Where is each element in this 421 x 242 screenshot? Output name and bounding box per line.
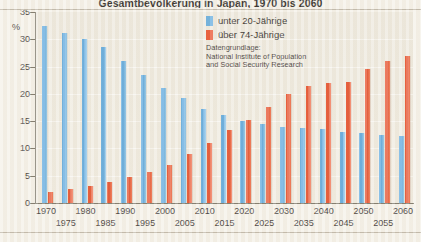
- x-tick-label: 2015: [214, 218, 234, 228]
- bar-unter-20: [240, 121, 245, 203]
- y-axis-unit-label: %: [12, 22, 20, 32]
- bar-ueber-74: [266, 107, 271, 203]
- bar-unter-20: [359, 133, 364, 203]
- bar-group: [300, 12, 311, 203]
- chart-title: Gesamtbevölkerung in Japan, 1970 bis 206…: [0, 0, 421, 8]
- bar-ueber-74: [405, 56, 410, 203]
- y-axis-ticks: 05101520253035: [0, 0, 30, 242]
- y-tick-mark: [30, 148, 35, 149]
- bar-ueber-74: [127, 177, 132, 203]
- bar-ueber-74: [246, 120, 251, 203]
- bar-unter-20: [141, 75, 146, 203]
- y-tick-label: 25: [4, 63, 30, 72]
- bar-ueber-74: [167, 165, 172, 203]
- y-tick-mark: [30, 121, 35, 122]
- y-axis-line: [35, 12, 36, 204]
- x-tick-label: 2045: [334, 218, 354, 228]
- x-tick-label: 1980: [76, 206, 96, 216]
- x-tick-label: 2055: [373, 218, 393, 228]
- legend-swatch-red-icon: [206, 30, 213, 40]
- bar-ueber-74: [48, 192, 53, 203]
- bar-ueber-74: [207, 143, 212, 203]
- x-tick-label: 2025: [254, 218, 274, 228]
- y-tick-label: 20: [4, 90, 30, 99]
- y-tick-label: 10: [4, 144, 30, 153]
- x-tick-label: 2050: [353, 206, 373, 216]
- x-tick-label: 1990: [115, 206, 135, 216]
- x-tick-label: 1995: [135, 218, 155, 228]
- bar-unter-20: [181, 98, 186, 203]
- x-tick-label: 1970: [36, 206, 56, 216]
- bar-ueber-74: [227, 130, 232, 203]
- x-tick-label: 1975: [56, 218, 76, 228]
- y-tick-label: 30: [4, 35, 30, 44]
- bar-unter-20: [340, 132, 345, 203]
- bar-ueber-74: [88, 186, 93, 203]
- source-annotation: Datengrundlage: National Institute of Po…: [206, 44, 306, 70]
- bar-group: [161, 12, 172, 203]
- y-tick-mark: [30, 176, 35, 177]
- bar-group: [340, 12, 351, 203]
- bar-unter-20: [161, 88, 166, 203]
- bar-unter-20: [121, 61, 126, 203]
- legend-item-unter-20: unter 20-Jährige: [206, 14, 287, 27]
- y-tick-mark: [30, 203, 35, 204]
- bar-unter-20: [42, 26, 47, 203]
- legend-label-ueber-74: über 74-Jährige: [218, 29, 285, 40]
- bar-ueber-74: [68, 189, 73, 203]
- y-tick-mark: [30, 67, 35, 68]
- y-tick-label: 0: [4, 199, 30, 208]
- bar-ueber-74: [147, 172, 152, 203]
- bar-group: [359, 12, 370, 203]
- bar-unter-20: [62, 33, 67, 203]
- bar-group: [379, 12, 390, 203]
- y-tick-mark: [30, 12, 35, 13]
- bar-group: [101, 12, 112, 203]
- bar-unter-20: [320, 129, 325, 203]
- x-tick-label: 2035: [294, 218, 314, 228]
- bar-group: [141, 12, 152, 203]
- bar-unter-20: [399, 136, 404, 203]
- bar-ueber-74: [385, 61, 390, 203]
- bar-group: [42, 12, 53, 203]
- bar-unter-20: [221, 115, 226, 203]
- title-divider: [0, 9, 421, 10]
- bar-unter-20: [280, 127, 285, 203]
- x-tick-label: 2060: [393, 206, 413, 216]
- x-tick-label: 2030: [274, 206, 294, 216]
- bar-group: [121, 12, 132, 203]
- legend-label-unter-20: unter 20-Jährige: [218, 15, 287, 26]
- bottom-divider: [0, 232, 421, 233]
- legend-swatch-blue-icon: [206, 16, 213, 26]
- x-tick-label: 2005: [175, 218, 195, 228]
- bar-ueber-74: [306, 86, 311, 203]
- x-tick-label: 2000: [155, 206, 175, 216]
- bar-ueber-74: [107, 182, 112, 203]
- chart-container: Gesamtbevölkerung in Japan, 1970 bis 206…: [0, 0, 421, 242]
- bar-group: [181, 12, 192, 203]
- legend: unter 20-Jährige über 74-Jährige: [206, 14, 287, 42]
- bar-unter-20: [101, 47, 106, 203]
- y-tick-mark: [30, 94, 35, 95]
- bar-unter-20: [82, 39, 87, 203]
- bar-group: [399, 12, 410, 203]
- x-tick-label: 2040: [314, 206, 334, 216]
- y-tick-label: 15: [4, 117, 30, 126]
- bar-ueber-74: [187, 154, 192, 203]
- bar-unter-20: [201, 109, 206, 203]
- bar-ueber-74: [326, 83, 331, 203]
- y-tick-label: 5: [4, 172, 30, 181]
- bar-ueber-74: [286, 94, 291, 203]
- bar-unter-20: [260, 124, 265, 203]
- x-tick-label: 2020: [234, 206, 254, 216]
- bar-group: [320, 12, 331, 203]
- bar-ueber-74: [346, 82, 351, 203]
- bar-group: [82, 12, 93, 203]
- bar-ueber-74: [365, 69, 370, 203]
- x-tick-label: 1985: [95, 218, 115, 228]
- y-tick-mark: [30, 39, 35, 40]
- bar-unter-20: [379, 135, 384, 203]
- bar-group: [62, 12, 73, 203]
- legend-item-ueber-74: über 74-Jährige: [206, 28, 287, 41]
- x-tick-label: 2010: [195, 206, 215, 216]
